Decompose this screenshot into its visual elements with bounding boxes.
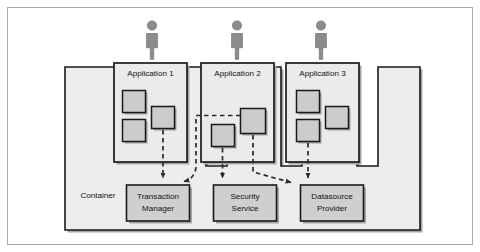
transaction-manager-label-line2: Manager <box>142 204 174 213</box>
datasource-provider-label-line1: Datasource <box>311 192 353 201</box>
application-3-label: Application 3 <box>299 69 346 78</box>
security-service-label-line1: Security <box>230 192 260 201</box>
application-1-label: Application 1 <box>127 69 174 78</box>
datasource-provider-label-line2: Provider <box>317 204 347 213</box>
security-service-label-line2: Service <box>232 204 259 213</box>
application-2-label: Application 2 <box>214 69 261 78</box>
architecture-diagram: Container Application 1 <box>0 0 480 252</box>
diagram-canvas: Container Application 1 <box>0 0 480 252</box>
transaction-manager-label-line1: Transaction <box>137 192 179 201</box>
container-label: Container <box>80 191 115 200</box>
